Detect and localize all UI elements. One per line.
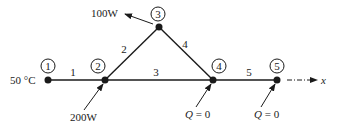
x-axis-label: x <box>320 74 326 86</box>
node-2-dot <box>102 77 109 84</box>
heat-in-label: 200W <box>70 111 98 123</box>
node-5-label: 5 <box>270 59 284 73</box>
q-node4-label: Q = 0 <box>185 108 211 120</box>
node-5-dot <box>274 77 281 84</box>
q-node5-label: Q = 0 <box>254 108 280 120</box>
node-1-dot <box>45 77 52 84</box>
svg-text:1: 1 <box>45 60 51 72</box>
heat-out-arrow-icon <box>125 14 153 24</box>
element-label-4: 4 <box>182 38 188 50</box>
heat-out-label: 100W <box>91 7 119 19</box>
element-label-1: 1 <box>70 66 76 78</box>
element-4 <box>159 27 213 80</box>
element-label-2: 2 <box>121 43 127 55</box>
element-label-3: 3 <box>153 66 159 78</box>
heat-in-arrow-icon <box>84 84 103 110</box>
node-3-label: 3 <box>151 7 165 21</box>
q-node5-arrow-icon <box>261 84 275 107</box>
svg-text:4: 4 <box>216 60 222 72</box>
element-2 <box>105 27 159 80</box>
svg-text:3: 3 <box>155 8 161 20</box>
node-1-label: 1 <box>41 59 55 73</box>
svg-text:5: 5 <box>274 60 280 72</box>
node-4-label: 4 <box>212 59 226 73</box>
node-2-label: 2 <box>91 59 105 73</box>
element-label-5: 5 <box>246 66 252 78</box>
node-4-dot <box>210 77 217 84</box>
svg-text:2: 2 <box>95 60 101 72</box>
node-3-dot <box>156 24 163 31</box>
truss-heat-diagram: 1 2 3 4 5 1 2 3 4 5 50 °C 100W 200W Q = … <box>0 0 342 126</box>
temperature-label: 50 °C <box>10 74 36 86</box>
q-node4-arrow-icon <box>196 84 211 107</box>
